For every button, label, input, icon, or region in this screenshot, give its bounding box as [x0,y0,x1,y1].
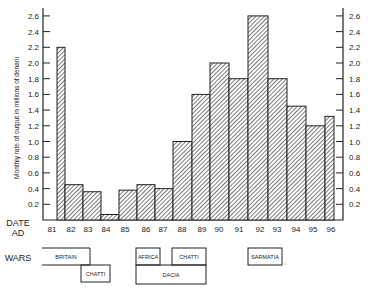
war-chatti: CHATTI [81,265,110,282]
bar-93 [268,79,287,220]
bar-83 [83,192,101,220]
war-britain: BRITAIN [42,248,90,265]
wars-timeline: BRITAINCHATTIAFRICACHATTIDACIASARMATIA, [42,248,286,284]
svg-text:DACIA: DACIA [163,272,180,278]
denarii-output-chart: Monthly rate of output in millions of de… [0,0,368,290]
bar-85 [119,190,137,220]
year-label: 92 [256,225,265,234]
svg-text:CHATTI: CHATTI [179,254,199,260]
year-label: 89 [198,225,207,234]
year-label: 82 [67,225,76,234]
ad-label: AD [12,228,25,238]
right-tick-label: 1.6 [349,90,361,99]
year-label: 81 [48,225,57,234]
left-tick-label: 0.4 [28,185,40,194]
bar-95 [306,126,325,220]
bar-96 [325,116,334,220]
year-label: 84 [102,225,111,234]
svg-text:BRITAIN: BRITAIN [55,254,76,260]
left-tick-label: 2.2 [28,43,40,52]
year-label: 93 [273,225,282,234]
svg-text:CHATTI: CHATTI [86,271,106,277]
y-axis-title: Monthly rate of output in millions of de… [13,57,21,179]
left-tick-label: 2.0 [28,59,40,68]
wars-label: WARS [5,253,32,263]
bar-84 [101,215,119,220]
year-label: 88 [178,225,187,234]
year-label: 95 [309,225,318,234]
left-axis-ticks: 0.20.40.60.81.01.21.41.61.82.02.22.42.6 [28,12,50,209]
svg-text:SARMATIA: SARMATIA [251,254,279,260]
war-africa: AFRICA [136,248,160,265]
bar-88 [173,142,192,221]
sarmatia-mark: , [284,259,286,265]
left-tick-label: 2.4 [28,28,40,37]
right-tick-label: 2.0 [349,59,361,68]
bar-89 [192,94,210,220]
bar-94 [287,106,306,220]
bar-92 [248,16,268,220]
svg-text:AFRICA: AFRICA [138,254,159,260]
year-label: 91 [235,225,244,234]
year-label: 96 [327,225,336,234]
year-label: 87 [159,225,168,234]
right-tick-label: 2.6 [349,12,361,21]
y-axis-label: Monthly rate of output in millions of de… [13,57,21,179]
left-tick-label: 1.8 [28,75,40,84]
bars [57,16,334,220]
left-tick-label: 0.2 [28,200,40,209]
year-label: 94 [292,225,301,234]
left-tick-label: 0.6 [28,169,40,178]
year-label: 86 [142,225,151,234]
right-tick-label: 1.4 [349,106,361,115]
right-tick-label: 0.8 [349,153,361,162]
bar-86 [137,185,155,220]
right-tick-label: 0.6 [349,169,361,178]
year-label: 83 [84,225,93,234]
year-label: 90 [215,225,224,234]
x-axis-year-labels: 81828384858687888990919293949596 [48,225,336,234]
right-tick-label: 2.2 [349,43,361,52]
row-labels: DATEADWARS [5,218,32,263]
bar-82 [65,185,83,220]
war-chatti: CHATTI [172,248,206,265]
right-axis-ticks: 0.20.40.60.81.01.21.41.61.82.02.22.42.6 [336,12,361,209]
right-tick-label: 2.4 [349,28,361,37]
left-tick-label: 1.0 [28,138,40,147]
left-tick-label: 1.4 [28,106,40,115]
bar-87 [155,189,173,220]
left-tick-label: 0.8 [28,153,40,162]
right-tick-label: 1.0 [349,138,361,147]
left-tick-label: 2.6 [28,12,40,21]
right-tick-label: 0.4 [349,185,361,194]
bar-90 [210,63,229,220]
bar-91 [229,79,248,220]
bar-81 [57,47,65,220]
left-tick-label: 1.6 [28,90,40,99]
war-dacia: DACIA [136,265,206,284]
left-tick-label: 1.2 [28,122,40,131]
war-sarmatia: SARMATIA [248,248,282,265]
right-tick-label: 1.8 [349,75,361,84]
right-tick-label: 1.2 [349,122,361,131]
right-tick-label: 0.2 [349,200,361,209]
year-label: 85 [121,225,130,234]
date-label: DATE [6,218,29,228]
